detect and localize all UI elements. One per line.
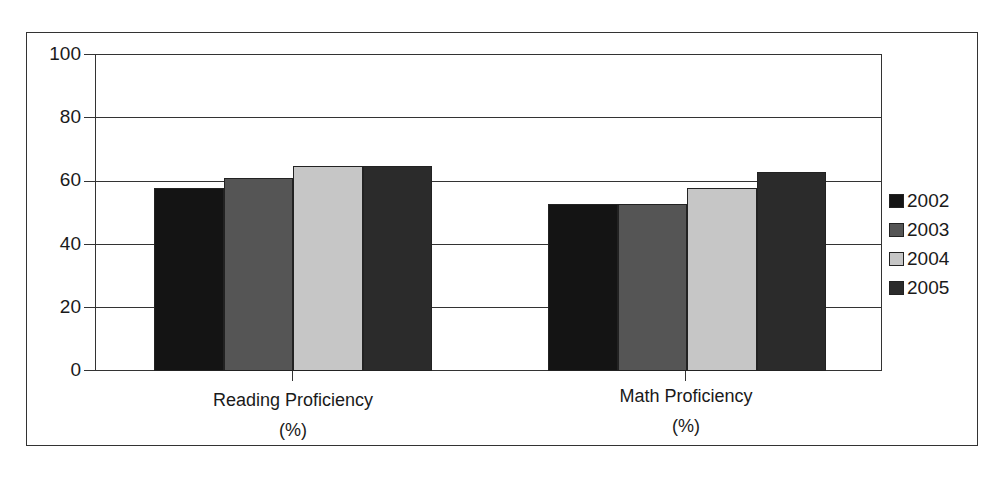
bar-reading-2003 [224,178,294,371]
legend-swatch-2004 [889,252,904,266]
legend: 2002 2003 2004 2005 [889,186,949,302]
legend-label: 2004 [907,248,949,270]
bar-reading-2002 [154,188,224,371]
plot-area [95,55,882,371]
legend-swatch-2005 [889,281,904,295]
x-label-math-line1: Math Proficiency [556,381,816,411]
y-tick-label: 0 [21,360,81,380]
x-label-reading-line2: (%) [163,415,423,445]
y-tick-label: 100 [21,44,81,64]
bar-math-2002 [548,204,618,371]
legend-label: 2005 [907,277,949,299]
y-tick-label: 40 [21,234,81,254]
bar-reading-2004 [293,166,363,371]
legend-item-2005: 2005 [889,273,949,302]
x-label-math-line2: (%) [556,411,816,441]
bar-math-2005 [757,172,827,371]
legend-label: 2002 [907,190,949,212]
bar-reading-2005 [363,166,433,371]
y-tick-label: 80 [21,107,81,127]
x-label-reading-line1: Reading Proficiency [163,385,423,415]
bar-math-2004 [687,188,757,371]
bar-math-2003 [618,204,688,371]
legend-item-2003: 2003 [889,215,949,244]
x-label-reading: Reading Proficiency (%) [163,385,423,445]
gridline-100 [84,54,882,55]
legend-swatch-2003 [889,223,904,237]
legend-item-2004: 2004 [889,244,949,273]
legend-swatch-2002 [889,194,904,208]
y-tick-label: 20 [21,297,81,317]
legend-label: 2003 [907,219,949,241]
gridline-80 [84,117,882,118]
x-tick-reading [292,371,293,381]
x-label-math: Math Proficiency (%) [556,381,816,441]
x-tick-math [685,371,686,381]
legend-item-2002: 2002 [889,186,949,215]
y-tick-label: 60 [21,170,81,190]
